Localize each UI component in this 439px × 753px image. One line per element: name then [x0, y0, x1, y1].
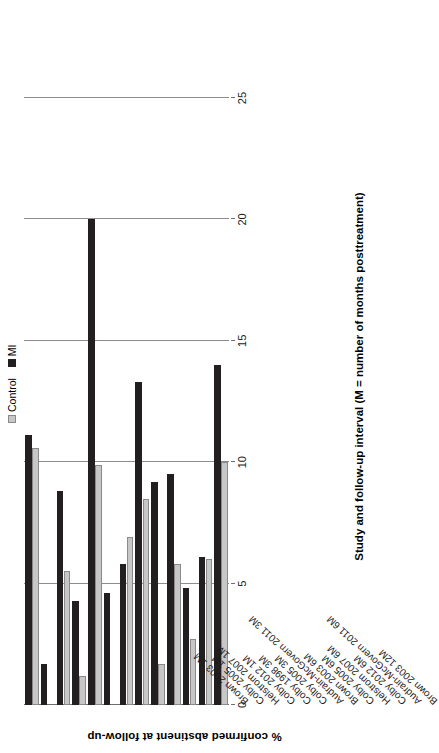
legend-label-control: Control: [6, 378, 18, 412]
bar-mi: [57, 491, 64, 705]
bar-mi: [135, 382, 142, 705]
bar-control: [190, 639, 197, 705]
legend-label-mi: MI: [6, 344, 18, 356]
bar-control: [64, 571, 71, 705]
bar-mi: [199, 557, 206, 705]
bar-mi: [72, 601, 79, 705]
bar-mi: [41, 664, 48, 705]
bars-layer: [24, 98, 229, 705]
legend-item-mi: MI: [6, 344, 18, 367]
bar-mi: [183, 588, 190, 705]
control-swatch-icon: [8, 415, 16, 423]
bar-control: [79, 676, 86, 705]
mi-swatch-icon: [8, 359, 16, 367]
category-labels-layer: Brown 2003 1MColby 2005 1MHelstrom 2007 …: [233, 98, 353, 705]
bar-mi: [25, 436, 32, 706]
plot-area: 0510152025: [24, 98, 229, 705]
bar-mi: [88, 219, 95, 705]
bar-mi: [167, 474, 174, 705]
chart-legend: Control MI: [6, 344, 18, 423]
bar-control: [127, 537, 134, 705]
bar-control: [143, 499, 150, 705]
x-axis-title: Study and follow-up interval (M = number…: [353, 0, 365, 753]
bar-control: [174, 564, 181, 705]
bar-control: [158, 664, 165, 705]
legend-item-control: Control: [6, 378, 18, 423]
bar-control: [32, 448, 39, 705]
bar-mi: [104, 593, 111, 705]
bar-mi: [120, 564, 127, 705]
bar-mi: [151, 482, 158, 705]
bar-control: [95, 465, 102, 705]
bar-control: [206, 559, 213, 705]
y-axis-title: % confirmed abstinent at follow-up: [0, 729, 369, 745]
